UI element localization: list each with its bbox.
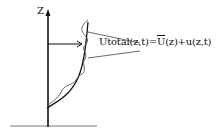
mean-profile-curve	[47, 22, 88, 108]
mean-velocity-symbol: U	[157, 36, 165, 47]
velocity-equation: Utotal(z,t)=U(z)+u(z,t)	[99, 36, 211, 47]
z-axis-label: Z	[37, 5, 44, 16]
profile-diagram	[0, 0, 222, 136]
leader-line-lower	[88, 51, 140, 58]
equation-prefix: Utotal(z,t)=	[99, 36, 157, 47]
z-axis-arrowhead	[46, 9, 51, 16]
equation-suffix: (z)+u(z,t)	[165, 36, 211, 47]
